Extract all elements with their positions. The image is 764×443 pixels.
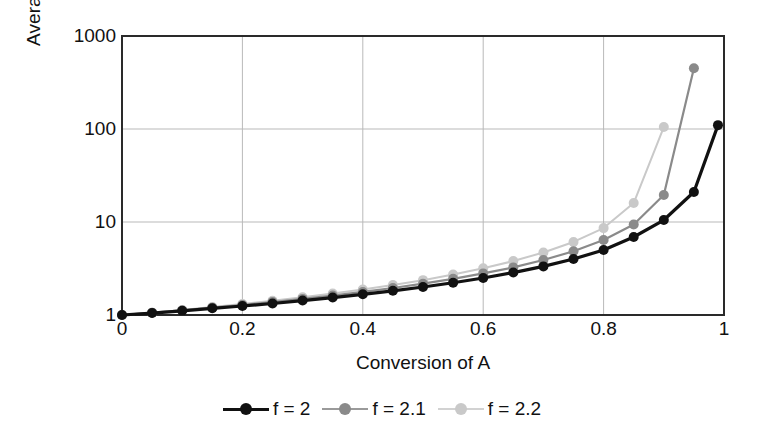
x-axis-title: Conversion of A	[122, 352, 724, 374]
data-series-layer	[117, 63, 723, 320]
data-point-marker	[508, 268, 518, 278]
data-point-marker	[659, 215, 669, 225]
data-series-f2.1	[117, 63, 699, 320]
x-tick-label: 0.6	[470, 318, 496, 340]
data-point-marker	[599, 235, 609, 245]
legend-marker-f21	[322, 401, 368, 417]
gridlines	[122, 36, 724, 315]
data-point-marker	[298, 296, 308, 306]
data-point-marker	[629, 232, 639, 242]
legend-label: f = 2.1	[372, 398, 425, 420]
x-tick-label: 0.4	[350, 318, 376, 340]
data-point-marker	[659, 122, 669, 132]
data-point-marker	[689, 187, 699, 197]
data-point-marker	[713, 120, 723, 130]
plot-area	[0, 0, 764, 443]
data-point-marker	[418, 282, 428, 292]
legend-dot-icon	[339, 403, 351, 415]
data-point-marker	[569, 237, 579, 247]
chart-legend: f = 2 f = 2.1 f = 2.2	[0, 398, 764, 420]
data-point-marker	[569, 254, 579, 264]
data-point-marker	[478, 273, 488, 283]
plot-border	[122, 36, 724, 315]
data-point-marker	[599, 223, 609, 233]
data-point-marker	[268, 298, 278, 308]
data-point-marker	[629, 220, 639, 230]
legend-dot-icon	[455, 403, 467, 415]
x-tick-label: 0.2	[229, 318, 255, 340]
data-point-marker	[689, 63, 699, 73]
legend-label: f = 2.2	[488, 398, 541, 420]
data-point-marker	[328, 293, 338, 303]
legend-marker-f2	[223, 401, 269, 417]
x-tick-label: 0	[117, 318, 128, 340]
x-tick-label: 0.8	[590, 318, 616, 340]
data-point-marker	[629, 198, 639, 208]
chart-figure: Average chain size 1000 100 10 1 00.20.4…	[0, 0, 764, 443]
data-point-marker	[237, 301, 247, 311]
data-point-marker	[358, 289, 368, 299]
data-point-marker	[599, 245, 609, 255]
legend-item-f22[interactable]: f = 2.2	[438, 398, 541, 420]
series-line	[122, 68, 694, 315]
legend-item-f2[interactable]: f = 2	[223, 398, 311, 420]
legend-label: f = 2	[273, 398, 311, 420]
data-point-marker	[207, 303, 217, 313]
data-point-marker	[147, 308, 157, 318]
data-point-marker	[538, 261, 548, 271]
legend-marker-f22	[438, 401, 484, 417]
data-point-marker	[448, 278, 458, 288]
data-point-marker	[659, 190, 669, 200]
legend-item-f21[interactable]: f = 2.1	[322, 398, 425, 420]
data-point-marker	[388, 286, 398, 296]
x-tick-label: 1	[719, 318, 730, 340]
data-point-marker	[177, 306, 187, 316]
legend-dot-icon	[240, 403, 252, 415]
